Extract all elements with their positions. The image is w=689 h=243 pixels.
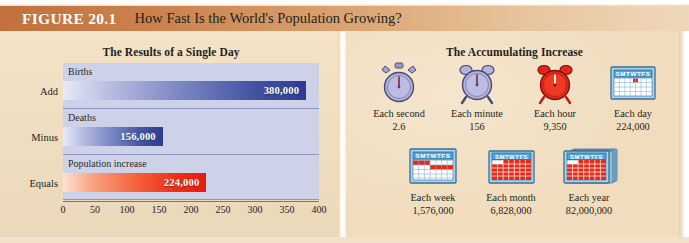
stat-label: Each month [468, 192, 554, 205]
stat-each-minute: Each minute 156 [434, 61, 520, 133]
stat-each-year: SMTWTFS Each year 82,000,000 [546, 145, 632, 217]
stopwatch-icon [356, 61, 442, 105]
row-divider [63, 108, 319, 109]
bar-deaths: 156,000 [63, 127, 163, 146]
category-label-minus: Minus [0, 132, 58, 143]
stat-each-week: SMTWTFS Each week 1,576,000 [390, 145, 476, 217]
stat-value: 9,350 [512, 121, 598, 134]
x-tick: 0 [61, 204, 66, 215]
calendar-year-icon: SMTWTFS [546, 145, 632, 189]
stat-label: Each year [546, 192, 632, 205]
x-tick: 50 [90, 204, 100, 215]
stat-each-day: SMTWTFS Each day 224,000 [590, 61, 676, 133]
bar-value-population: 224,000 [164, 177, 200, 188]
figure-title: How Fast Is the World's Population Growi… [135, 10, 402, 27]
x-tick: 300 [248, 204, 263, 215]
bar-label-deaths: Deaths [68, 112, 96, 123]
x-tick: 350 [280, 204, 295, 215]
stat-label: Each second [356, 108, 442, 121]
calendar-header-text: SMTWTFS [616, 70, 651, 77]
stat-label: Each day [590, 108, 676, 121]
figure-number: FIGURE 20.1 [22, 10, 117, 28]
calendar-month-icon: SMTWTFS [468, 145, 554, 189]
x-tick: 150 [152, 204, 167, 215]
bar-label-births: Births [68, 66, 92, 77]
stat-label: Each week [390, 192, 476, 205]
figure-header: FIGURE 20.1 How Fast Is the World's Popu… [0, 6, 689, 31]
stat-label: Each minute [434, 108, 520, 121]
x-tick: 100 [120, 204, 135, 215]
stat-value: 6,828,000 [468, 205, 554, 218]
category-label-equals: Equals [0, 178, 58, 189]
bar-population-increase: 224,000 [63, 173, 206, 192]
figure-container: FIGURE 20.1 How Fast Is the World's Popu… [0, 0, 689, 243]
calendar-week-icon: SMTWTFS [390, 145, 476, 189]
stat-value: 156 [434, 121, 520, 134]
stat-value: 82,000,000 [546, 205, 632, 218]
stat-label: Each hour [512, 108, 598, 121]
bar-births: 380,000 [63, 81, 306, 100]
alarm-clock-icon [434, 61, 520, 105]
alarm-clock-red-icon [512, 61, 598, 105]
row-divider [63, 199, 319, 200]
stat-value: 224,000 [590, 121, 676, 134]
x-tick: 200 [184, 204, 199, 215]
calendar-day-icon: SMTWTFS [590, 61, 676, 105]
stat-value: 2.6 [356, 121, 442, 134]
x-axis: 0 50 100 150 200 250 300 350 400 [63, 201, 319, 216]
svg-text:SMTWTFS: SMTWTFS [416, 152, 451, 159]
stat-value: 1,576,000 [390, 205, 476, 218]
svg-text:SMTWTFS: SMTWTFS [570, 154, 603, 160]
category-label-add: Add [0, 86, 58, 97]
x-tick: 250 [216, 204, 231, 215]
stat-each-second: Each second 2.6 [356, 61, 442, 133]
bar-label-population: Population increase [68, 158, 147, 169]
left-chart-title: The Results of a Single Day [0, 46, 342, 58]
stat-each-hour: Each hour 9,350 [512, 61, 598, 133]
right-chart-title: The Accumulating Increase [346, 46, 683, 58]
row-divider [63, 154, 319, 155]
bar-value-deaths: 156,000 [120, 131, 156, 142]
x-tick: 400 [312, 204, 327, 215]
stat-each-month: SMTWTFS Each month 6,828,000 [468, 145, 554, 217]
panel-right-edge [679, 31, 689, 237]
svg-text:SMTWTFS: SMTWTFS [495, 154, 528, 160]
bar-value-births: 380,000 [264, 85, 300, 96]
